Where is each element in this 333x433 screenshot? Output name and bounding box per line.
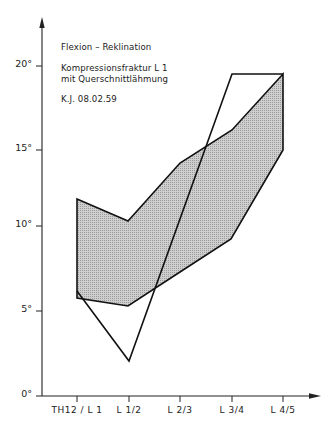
y-ticks xyxy=(36,66,42,396)
y-tick-label-20: 20° xyxy=(6,58,32,69)
normal-range-band xyxy=(77,74,283,306)
x-axis-arrow-icon xyxy=(309,393,321,398)
patient-id-date: K.J. 08.02.59 xyxy=(61,94,117,104)
diagnosis-line-1: Kompressionsfraktur L 1 xyxy=(61,63,168,73)
y-tick-label-10: 10° xyxy=(6,218,32,229)
chart-title: Flexion – Reklination xyxy=(61,42,151,52)
y-tick-label-5: 5° xyxy=(6,303,32,314)
y-tick-label-15: 15° xyxy=(6,142,32,153)
x-tick-label-th12-l1: TH12 / L 1 xyxy=(47,405,107,415)
y-axis-arrow-icon xyxy=(39,17,44,28)
y-tick-label-0: 0° xyxy=(6,388,32,399)
x-ticks xyxy=(77,396,283,402)
x-tick-label-l2-3: L 2/3 xyxy=(150,405,210,415)
x-tick-label-l4-5: L 4/5 xyxy=(253,405,313,415)
diagnosis-line-2: mit Querschnittlähmung xyxy=(61,74,168,84)
